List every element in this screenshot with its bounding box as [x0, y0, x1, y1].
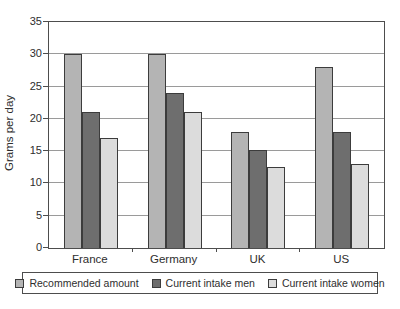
- y-tick-mark-20: [43, 118, 48, 119]
- legend-item-men: Current intake men: [152, 277, 255, 289]
- legend-item-recommended: Recommended amount: [15, 277, 138, 289]
- y-tick-label-5: 5: [14, 209, 42, 222]
- bar-us-men: [333, 132, 351, 248]
- plot-area: [48, 21, 385, 249]
- legend-label: Current intake women: [282, 277, 385, 289]
- bar-uk-women: [267, 167, 285, 248]
- y-tick-label-10: 10: [14, 176, 42, 189]
- bar-us-recommended: [315, 67, 333, 248]
- bar-france-recommended: [64, 54, 82, 248]
- y-tick-label-20: 20: [14, 112, 42, 125]
- bar-germany-recommended: [148, 54, 166, 248]
- bar-us-women: [351, 164, 369, 248]
- bar-germany-women: [184, 112, 202, 248]
- x-tick-mark-1: [132, 248, 133, 252]
- bar-germany-men: [166, 93, 184, 248]
- x-category-label-germany: Germany: [132, 253, 216, 265]
- legend-label: Recommended amount: [29, 277, 138, 289]
- x-category-label-us: US: [299, 253, 383, 265]
- bar-france-women: [100, 138, 118, 248]
- y-tick-label-15: 15: [14, 144, 42, 157]
- y-tick-mark-30: [43, 53, 48, 54]
- x-category-label-france: France: [48, 253, 132, 265]
- bar-uk-men: [249, 150, 267, 248]
- x-category-label-uk: UK: [216, 253, 300, 265]
- x-tick-mark-2: [216, 248, 217, 252]
- legend-label: Current intake men: [166, 277, 255, 289]
- y-tick-label-30: 30: [14, 47, 42, 60]
- y-tick-label-35: 35: [14, 15, 42, 28]
- gridline-25: [49, 86, 384, 87]
- y-axis-title: Grams per day: [3, 78, 15, 188]
- legend-item-women: Current intake women: [268, 277, 385, 289]
- y-tick-mark-10: [43, 182, 48, 183]
- x-tick-mark-3: [299, 248, 300, 252]
- gridline-30: [49, 53, 384, 54]
- legend: Recommended amountCurrent intake menCurr…: [22, 272, 378, 294]
- bar-france-men: [82, 112, 100, 248]
- y-tick-label-25: 25: [14, 80, 42, 93]
- legend-swatch-icon: [152, 279, 161, 288]
- y-tick-label-0: 0: [14, 241, 42, 254]
- legend-swatch-icon: [268, 279, 277, 288]
- y-tick-mark-35: [43, 21, 48, 22]
- legend-swatch-icon: [15, 279, 24, 288]
- bar-uk-recommended: [231, 132, 249, 248]
- y-tick-mark-5: [43, 215, 48, 216]
- y-tick-mark-15: [43, 150, 48, 151]
- y-tick-mark-25: [43, 86, 48, 87]
- y-tick-mark-0: [43, 247, 48, 248]
- bar-chart-figure: Grams per day 05101520253035FranceGerman…: [0, 0, 400, 309]
